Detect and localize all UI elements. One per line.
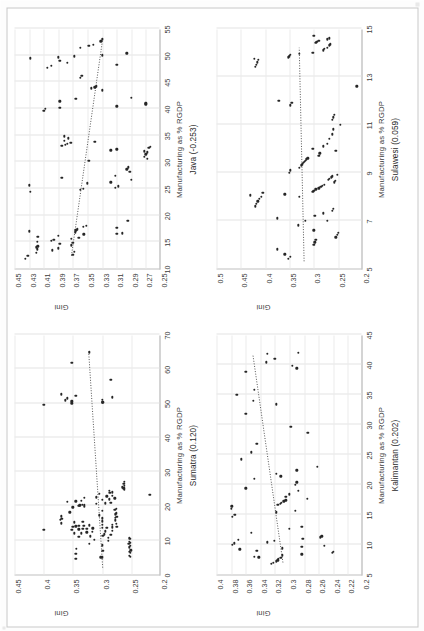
data-point [57, 56, 59, 58]
x-tick-label: 30 [162, 158, 171, 166]
panel-title: Kalimantan (0.202) [390, 335, 399, 575]
data-point [290, 101, 292, 103]
x-tick-label: 10 [162, 537, 171, 545]
data-point [83, 503, 85, 505]
data-point [250, 531, 252, 533]
data-point [298, 52, 300, 54]
data-point [107, 536, 109, 538]
data-point [82, 233, 84, 235]
data-point [128, 536, 130, 538]
data-point [276, 248, 278, 250]
scatter-plot-sumatra: Gini 0.450.40.350.30.250.2 0102030405060… [10, 321, 206, 617]
data-point [280, 546, 282, 548]
x-tick-label: 55 [162, 25, 171, 33]
scatter-plot-java: Gini 0.450.430.410.390.370.350.330.310.2… [10, 15, 206, 311]
y-tick-label: 0.25 [130, 579, 139, 593]
data-point [86, 181, 88, 183]
data-point [295, 366, 297, 368]
data-point [100, 517, 102, 519]
data-point [300, 552, 302, 554]
y-axis-ticks: 0.50.450.40.350.30.250.2 [216, 271, 362, 301]
data-point [306, 156, 308, 158]
data-point [334, 179, 336, 181]
data-point [235, 393, 237, 395]
data-point [103, 532, 105, 534]
data-point [146, 157, 148, 159]
y-tick-label: 0.32 [274, 579, 283, 593]
data-point [100, 498, 102, 500]
data-point [260, 195, 262, 197]
data-point [336, 231, 338, 233]
data-point [26, 254, 28, 256]
data-point [253, 555, 255, 557]
data-point [87, 44, 89, 46]
data-point [143, 149, 145, 151]
y-tick-label: 0.33 [101, 273, 110, 287]
data-point [100, 89, 102, 91]
y-axis-label: Gini [256, 608, 270, 617]
plot-area [216, 335, 362, 575]
data-point [95, 495, 97, 497]
scatter-plot-sulawesi: Gini 0.50.450.40.350.30.250.2 579111315 … [212, 15, 408, 311]
data-point [103, 501, 105, 503]
y-axis-label: Gini [256, 302, 270, 311]
data-point [144, 101, 146, 103]
y-tick-label: 0.4 [216, 579, 225, 589]
data-point [331, 132, 333, 134]
data-point [303, 219, 305, 221]
data-point [60, 176, 62, 178]
data-point [70, 528, 72, 530]
y-tick-label: 0.35 [72, 579, 81, 593]
data-point [326, 142, 328, 144]
data-point [253, 477, 255, 479]
data-point [49, 64, 51, 66]
y-tick-label: 0.5 [216, 273, 225, 283]
trendline [216, 28, 362, 268]
y-tick-label: 0.26 [318, 579, 327, 593]
data-point [238, 548, 240, 550]
data-point [95, 84, 97, 86]
plot-area [216, 29, 362, 269]
data-point [115, 515, 117, 517]
y-tick-label: 0.45 [14, 579, 23, 593]
data-point [84, 224, 86, 226]
data-point [71, 253, 73, 255]
y-tick-label: 0.3 [101, 579, 110, 589]
data-point [323, 47, 325, 49]
data-point [277, 99, 279, 101]
data-point [300, 545, 302, 547]
data-point [126, 219, 128, 221]
data-point [107, 497, 109, 499]
data-point [276, 216, 278, 218]
data-point [275, 472, 277, 474]
data-point [58, 99, 60, 101]
data-point [115, 105, 117, 107]
data-point [107, 539, 109, 541]
data-point [253, 388, 255, 390]
data-point [65, 397, 67, 399]
x-tick-label: 60 [162, 365, 171, 373]
data-point [65, 61, 67, 63]
data-point [334, 149, 336, 151]
y-tick-label: 0.41 [43, 273, 52, 287]
data-point [130, 178, 132, 180]
data-point [272, 561, 274, 563]
data-point [91, 527, 93, 529]
x-tick-label: 25 [162, 185, 171, 193]
figure-page: Gini 0.450.40.350.30.250.2 0102030405060… [0, 0, 424, 631]
x-tick-label: 35 [364, 391, 373, 399]
data-point [72, 521, 74, 523]
data-point [51, 249, 53, 251]
data-point [311, 147, 313, 149]
data-point [291, 364, 293, 366]
y-tick-label: 0.31 [116, 273, 125, 287]
data-point [230, 504, 232, 506]
scan-artifact [415, 2, 419, 6]
data-point [105, 495, 107, 497]
data-point [97, 513, 99, 515]
x-tick-label: 9 [364, 171, 373, 175]
data-point [313, 214, 315, 216]
data-point [110, 395, 112, 397]
x-axis-ticks: 010203040506070 [162, 335, 174, 575]
data-point [24, 257, 26, 259]
